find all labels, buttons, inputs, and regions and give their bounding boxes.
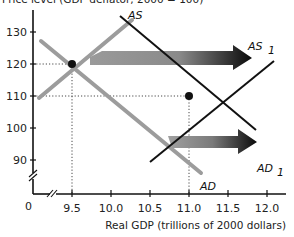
- svg-text:100: 100: [6, 122, 27, 135]
- y-tick-labels: 130 120 110 100 90: [6, 26, 27, 167]
- svg-text:130: 130: [6, 26, 27, 39]
- svg-text:12.0: 12.0: [255, 202, 280, 215]
- svg-text:9.5: 9.5: [63, 202, 81, 215]
- svg-text:AS: AS: [247, 40, 263, 53]
- svg-text:10.5: 10.5: [138, 202, 163, 215]
- svg-text:110: 110: [6, 90, 27, 103]
- y-axis-title: Price level (GDP deflator, 2000 = 100): [2, 0, 203, 5]
- new-equilibrium-point: [185, 92, 193, 100]
- as-label: AS: [127, 9, 143, 22]
- aggregate-supply-demand-chart: Price level (GDP deflator, 2000 = 100) 1…: [0, 0, 294, 237]
- svg-text:11.5: 11.5: [216, 202, 241, 215]
- x-axis-title: Real GDP (trillions of 2000 dollars): [105, 219, 286, 231]
- as1-label: AS 1: [247, 40, 275, 57]
- svg-text:11.0: 11.0: [177, 202, 202, 215]
- svg-text:1: 1: [277, 166, 284, 179]
- svg-text:AD: AD: [256, 162, 273, 175]
- ad1-curve: [120, 16, 256, 130]
- ad1-label: AD 1: [256, 162, 284, 179]
- origin-label: 0: [25, 200, 32, 213]
- svg-text:10.0: 10.0: [99, 202, 124, 215]
- svg-text:90: 90: [13, 154, 27, 167]
- ad-shift-arrow-icon: [168, 129, 257, 154]
- x-tick-labels: 9.5 10.0 10.5 11.0 11.5 12.0: [63, 202, 279, 215]
- initial-equilibrium-point: [68, 60, 76, 68]
- axes: [33, 10, 286, 194]
- ad-label: AD: [199, 180, 216, 193]
- svg-text:1: 1: [268, 44, 275, 57]
- svg-text:120: 120: [6, 58, 27, 71]
